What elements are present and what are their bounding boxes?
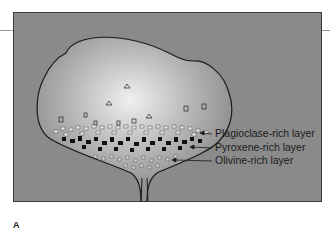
magma-chamber-diagram xyxy=(14,13,322,202)
pyroxene-label: Pyroxene-rich layer xyxy=(215,142,305,153)
magma-chamber-outline xyxy=(37,37,232,202)
plagioclase-label: Plagioclase-rich layer xyxy=(215,128,315,139)
magma-chamber-panel xyxy=(13,12,322,202)
olivine-label: Olivine-rich layer xyxy=(215,155,293,166)
figure-letter: A xyxy=(13,220,20,230)
